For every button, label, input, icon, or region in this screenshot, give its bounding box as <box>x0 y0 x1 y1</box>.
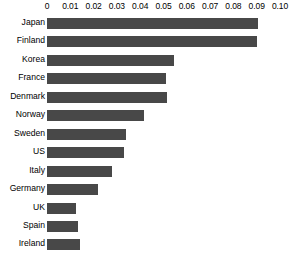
bar <box>47 110 144 121</box>
category-label: Korea <box>22 54 45 65</box>
x-tick-label: 0 <box>45 1 50 12</box>
bar-row: Denmark <box>0 89 294 108</box>
category-label: Sweden <box>14 128 45 139</box>
x-tick-label: 0.04 <box>132 1 148 12</box>
bar <box>47 73 166 84</box>
x-tick-label: 0.03 <box>109 1 125 12</box>
bar <box>47 166 112 177</box>
category-label: Finland <box>17 35 45 46</box>
bar-row: Italy <box>0 163 294 182</box>
x-tick-label: 0.01 <box>62 1 78 12</box>
bar-row: France <box>0 70 294 89</box>
bar-row: US <box>0 144 294 163</box>
category-label: Germany <box>10 183 45 194</box>
bar <box>47 147 124 158</box>
x-tick-label: 0.05 <box>155 1 171 12</box>
bar <box>47 203 76 214</box>
x-tick-label: 0.08 <box>225 1 241 12</box>
plot-area: JapanFinlandKoreaFranceDenmarkNorwaySwed… <box>0 14 294 256</box>
bar <box>47 184 98 195</box>
bar-row: Japan <box>0 15 294 34</box>
bar <box>47 239 80 250</box>
bar-row: Norway <box>0 107 294 126</box>
bar-row: Finland <box>0 33 294 52</box>
category-label: France <box>18 72 45 83</box>
bar-row: Ireland <box>0 236 294 255</box>
x-tick-label: 0.07 <box>202 1 218 12</box>
bar-row: Germany <box>0 181 294 200</box>
category-label: Denmark <box>10 91 45 102</box>
category-label: UK <box>33 202 45 213</box>
category-label: Japan <box>22 17 45 28</box>
x-tick-label: 0.09 <box>249 1 265 12</box>
bar <box>47 36 257 47</box>
bar <box>47 18 258 29</box>
category-label: Italy <box>29 165 45 176</box>
x-tick-label: 0.02 <box>86 1 102 12</box>
x-tick-label: 0.10 <box>272 1 288 12</box>
category-label: Spain <box>23 220 45 231</box>
bar <box>47 221 78 232</box>
bar <box>47 92 167 103</box>
bar <box>47 55 174 66</box>
bar-chart: 00.010.020.030.040.050.060.070.080.090.1… <box>0 0 294 256</box>
bar-row: Spain <box>0 218 294 237</box>
x-axis: 00.010.020.030.040.050.060.070.080.090.1… <box>0 0 294 14</box>
bar <box>47 129 126 140</box>
bar-row: Sweden <box>0 126 294 145</box>
bar-row: Korea <box>0 52 294 71</box>
x-tick-label: 0.06 <box>179 1 195 12</box>
category-label: Ireland <box>19 238 45 249</box>
category-label: Norway <box>16 109 45 120</box>
category-label: US <box>33 146 45 157</box>
bar-row: UK <box>0 200 294 219</box>
